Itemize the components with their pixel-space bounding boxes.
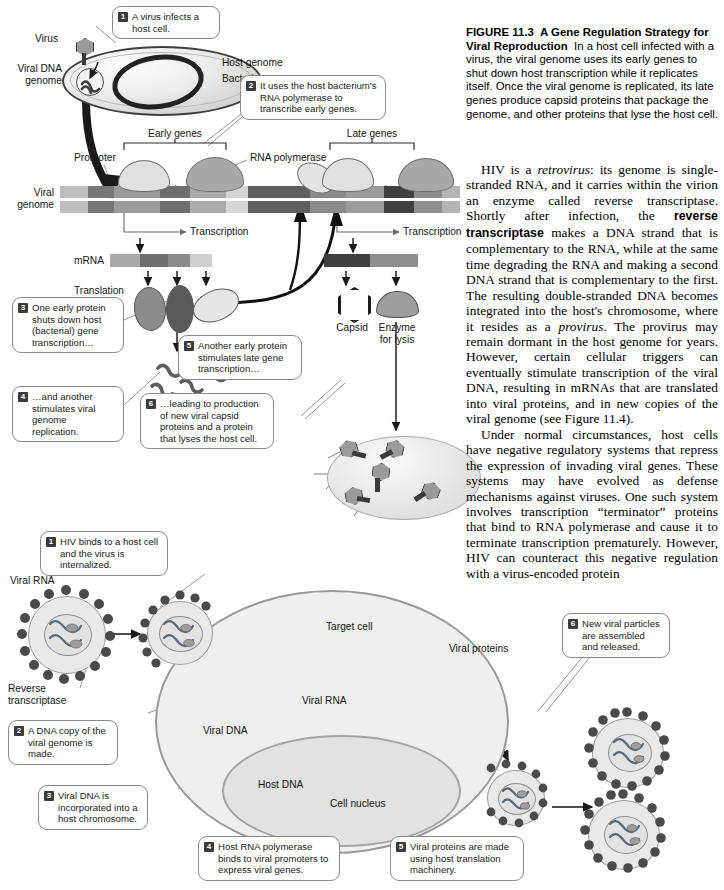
callout-text: A virus infects a host cell. — [132, 11, 211, 34]
label-transcription-early: Transcription — [190, 226, 249, 238]
callout-bottom-step-2[interactable]: 2A DNA copy of the viral genome is made. — [8, 720, 118, 765]
step-badge: 3 — [18, 303, 28, 313]
label-viral-rna-inner: Viral RNA — [302, 695, 347, 707]
label-host-dna: Host DNA — [258, 779, 303, 791]
step-badge: 5 — [396, 842, 406, 852]
virus-tail-icon — [82, 53, 86, 65]
callout-top-step-4[interactable]: 4…and another stimulates viral genome re… — [12, 386, 124, 442]
label-enzyme-for-lysis: Enzyme for lysis — [372, 322, 422, 345]
callout-text: Viral proteins are made using host trans… — [410, 841, 515, 876]
callout-top-step-3[interactable]: 3One early protein shuts down host (bact… — [12, 297, 124, 353]
callout-top-step-2[interactable]: 2It uses the host bacterium's RNA polyme… — [240, 75, 386, 120]
rna-polymerase-late-inactive — [322, 158, 374, 192]
label-reverse-transcriptase: Reverse transcriptase — [8, 683, 66, 706]
callout-text: Host RNA polymerase binds to viral promo… — [218, 841, 331, 876]
figure-page: Virus Viral DNA genome Host genome Bacte… — [0, 0, 724, 890]
callout-text: …and another stimulates viral genome rep… — [32, 391, 115, 437]
callout-top-step-1[interactable]: 1A virus infects a host cell. — [112, 6, 220, 39]
label-host-genome: Host genome — [222, 57, 283, 69]
early-protein-2 — [166, 285, 194, 333]
label-viral-dna-genome: Viral DNA genome — [0, 63, 62, 86]
body-paragraph-1: HIV is a retrovirus: its genome is singl… — [466, 162, 718, 427]
callout-bottom-step-3[interactable]: 3Viral DNA is incorporated into a host c… — [38, 785, 148, 830]
cell-nucleus — [222, 735, 461, 847]
step-badge: 4 — [18, 392, 28, 402]
p1-part-d: . The provirus may remain dormant in the… — [466, 319, 718, 427]
label-viral-proteins: Viral proteins — [449, 643, 508, 655]
label-virus: Virus — [0, 33, 58, 45]
step-badge: 3 — [44, 791, 54, 801]
label-viral-genome: Viral genome — [0, 187, 54, 210]
hiv-capsid-core — [604, 816, 648, 854]
term-provirus: provirus — [558, 319, 603, 334]
label-rna-polymerase: RNA polymerase — [250, 152, 326, 164]
callout-top-step-5[interactable]: 5Another early protein stimulates late g… — [178, 335, 302, 380]
hiv-capsid-core — [44, 614, 92, 656]
viral-dna-genome-circle — [76, 68, 104, 96]
label-late-genes: Late genes — [332, 128, 412, 140]
hiv-capsid-core — [498, 783, 536, 815]
label-translation: Translation — [38, 285, 124, 297]
label-target-cell: Target cell — [326, 621, 372, 633]
step-badge: 5 — [184, 341, 194, 351]
term-retrovirus: retrovirus — [537, 162, 590, 177]
step-badge: 6 — [146, 399, 156, 409]
capsid-protein-icon — [338, 287, 371, 323]
callout-bottom-step-4[interactable]: 4Host RNA polymerase binds to viral prom… — [198, 836, 340, 881]
callout-bottom-step-6[interactable]: 6New viral particles are assembled and r… — [562, 613, 670, 658]
rna-polymerase-early-inactive — [118, 160, 170, 192]
rna-polymerase-late-active — [398, 158, 454, 192]
callout-top-step-6[interactable]: 6…leading to production of new viral cap… — [140, 393, 274, 449]
callout-text: HIV binds to a host cell and the virus i… — [60, 536, 159, 571]
hiv-capsid-core — [608, 734, 652, 772]
early-protein-3 — [188, 282, 244, 329]
step-badge: 4 — [204, 842, 214, 852]
callout-text: New viral particles are assembled and re… — [582, 618, 661, 653]
mrna-early — [110, 254, 212, 267]
label-early-genes: Early genes — [135, 128, 215, 140]
figure-caption: FIGURE 11.3 A Gene Regulation Strategy f… — [466, 26, 718, 121]
released-phage-tail — [375, 478, 380, 492]
body-text-column: HIV is a retrovirus: its genome is singl… — [466, 162, 718, 581]
genome-replication-curve — [290, 202, 307, 290]
hiv-capsid-core — [159, 616, 203, 652]
label-mrna: mRNA — [50, 255, 104, 267]
viral-dna-injection-arrow — [86, 100, 122, 199]
callout-text: It uses the host bacterium's RNA polymer… — [260, 80, 377, 115]
gene-brackets — [124, 139, 414, 150]
label-transcription-late: Transcription — [403, 226, 462, 238]
label-viral-dna: Viral DNA — [203, 725, 248, 737]
step-badge: 1 — [46, 537, 56, 547]
label-viral-rna-left: Viral RNA — [10, 575, 55, 587]
lysis-enzyme-icon — [376, 291, 419, 318]
step-badge: 2 — [14, 726, 24, 736]
step-badge: 2 — [246, 81, 256, 91]
body-paragraph-2: Under normal circumstances, host cells h… — [466, 427, 718, 582]
figure-number: FIGURE 11.3 — [466, 26, 534, 38]
callout-text: Another early protein stimulates late ge… — [198, 340, 293, 375]
early-protein-1 — [132, 285, 168, 332]
callout-text: A DNA copy of the viral genome is made. — [28, 725, 109, 760]
p1-part-a: HIV is a — [481, 162, 537, 177]
callout-text: Viral DNA is incorporated into a host ch… — [58, 790, 139, 825]
label-promoter: Promoter — [74, 152, 116, 164]
p1-part-c: makes a DNA strand that is complementary… — [466, 225, 718, 334]
rna-polymerase-early-active — [186, 157, 244, 192]
callout-text: One early protein shuts down host (bacte… — [32, 302, 115, 348]
label-capsid: Capsid — [327, 322, 377, 334]
callout-bottom-step-1[interactable]: 1HIV binds to a host cell and the virus … — [40, 531, 168, 576]
step-badge: 1 — [118, 12, 128, 22]
mrna-late — [324, 254, 418, 267]
viral-genome-strand-bottom — [60, 201, 460, 213]
label-cell-nucleus: Cell nucleus — [330, 798, 386, 810]
callout-bottom-step-5[interactable]: 5Viral proteins are made using host tran… — [390, 836, 524, 881]
step-badge: 6 — [568, 619, 578, 629]
callout-text: …leading to production of new viral caps… — [160, 398, 265, 444]
